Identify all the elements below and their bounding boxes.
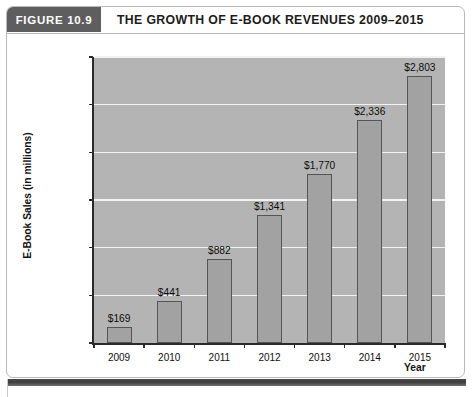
y-tick-mark [89,104,93,106]
y-tick-mark [89,247,93,249]
x-tick-label: 2013 [309,352,331,363]
bar-value-label: $1,770 [304,160,335,171]
x-tick-mark [294,343,296,348]
header-divider [7,33,465,34]
x-tick-mark [194,343,196,348]
y-tick-mark [89,56,93,58]
figure-number-badge: FIGURE 10.9 [7,7,101,32]
bar [307,174,332,343]
figure-root: FIGURE 10.9 THE GROWTH OF E-BOOK REVENUE… [0,0,473,397]
y-axis-title: E-Book Sales (in millions) [22,96,33,296]
y-tick-mark [89,295,93,297]
x-tick-label: 2015 [409,352,431,363]
x-tick-label: 2012 [258,352,280,363]
x-tick-label: 2014 [359,352,381,363]
bar-value-label: $2,803 [404,62,435,73]
figure-title: THE GROWTH OF E-BOOK REVENUES 2009–2015 [117,7,424,32]
plot-area: 0$500$1,000$1,500$2,000$2,500$3,000 2009… [92,57,445,345]
bar-value-label: $441 [158,287,181,298]
y-tick-mark [89,199,93,201]
figure-header: FIGURE 10.9 THE GROWTH OF E-BOOK REVENUE… [7,7,464,32]
y-tick-mark [89,152,93,154]
bar [157,301,182,343]
bar-value-label: $2,336 [354,106,385,117]
bar [407,76,432,343]
bar [107,327,132,343]
x-tick-mark [244,343,246,348]
x-tick-mark [143,343,145,348]
x-tick-mark [394,343,396,348]
bar-value-label: $882 [208,245,231,256]
footer-left-edge [7,379,8,397]
gridline [94,104,445,106]
x-tick-mark [93,343,95,348]
footer-bar [7,379,466,386]
bar [357,120,382,343]
x-tick-label: 2011 [209,352,231,363]
x-tick-label: 2009 [108,352,130,363]
bar [257,215,282,343]
x-tick-label: 2010 [158,352,180,363]
bar-value-label: $169 [108,313,131,324]
gridline [94,152,445,154]
gridline [94,56,445,58]
bar-value-label: $1,341 [254,201,285,212]
bar [207,259,232,343]
x-axis-title: Year [404,362,426,373]
figure-number-label: FIGURE 10.9 [16,14,93,26]
x-tick-mark [444,343,446,348]
x-tick-mark [344,343,346,348]
